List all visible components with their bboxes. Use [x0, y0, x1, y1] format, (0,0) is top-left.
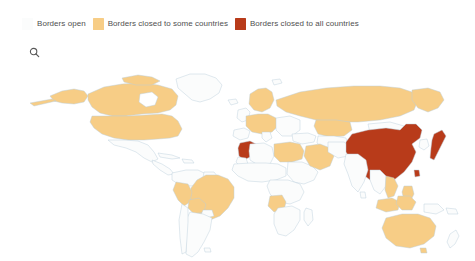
- country-japan[interactable]: [430, 130, 446, 160]
- region-western-europe[interactable]: [246, 114, 278, 134]
- legend-item-borders-open[interactable]: Borders open: [22, 16, 93, 32]
- country-libya-egypt[interactable]: [274, 142, 304, 162]
- island-falklands[interactable]: [204, 248, 211, 252]
- country-papua-new-guinea[interactable]: [424, 204, 444, 214]
- country-tasmania[interactable]: [420, 248, 427, 253]
- country-korea[interactable]: [419, 139, 429, 150]
- country-australia[interactable]: [382, 214, 436, 248]
- world-map[interactable]: [0, 58, 475, 261]
- legend-swatch-borders-closed-some: [93, 18, 104, 30]
- country-aleutians[interactable]: [30, 99, 56, 106]
- island-iceland[interactable]: [228, 99, 238, 105]
- country-iberia[interactable]: [233, 128, 250, 140]
- country-italy[interactable]: [262, 132, 272, 142]
- country-algeria[interactable]: [249, 143, 274, 165]
- country-west-africa[interactable]: [232, 163, 286, 182]
- world-map-svg[interactable]: [0, 58, 475, 261]
- island-svalbard[interactable]: [272, 79, 282, 85]
- country-kazakhstan[interactable]: [314, 120, 352, 137]
- country-russia-far-east[interactable]: [412, 88, 444, 112]
- legend-item-borders-closed-all[interactable]: Borders closed to all countries: [235, 16, 366, 32]
- legend-label-borders-closed-all: Borders closed to all countries: [250, 19, 359, 29]
- country-southern-africa[interactable]: [274, 206, 300, 236]
- legend-swatch-borders-open: [22, 18, 33, 30]
- country-taiwan[interactable]: [414, 170, 420, 177]
- country-central-america[interactable]: [152, 160, 174, 175]
- country-indonesia-west[interactable]: [376, 198, 400, 212]
- country-mexico[interactable]: [108, 140, 158, 162]
- country-scandinavia[interactable]: [249, 88, 274, 112]
- map-legend: Borders open Borders closed to some coun…: [22, 16, 366, 32]
- country-canada[interactable]: [88, 83, 178, 116]
- country-russia[interactable]: [276, 86, 418, 122]
- country-india[interactable]: [344, 154, 368, 192]
- country-united-states[interactable]: [90, 114, 182, 140]
- country-madagascar[interactable]: [304, 208, 313, 226]
- search-icon[interactable]: [29, 47, 40, 58]
- country-vietnam[interactable]: [385, 176, 398, 198]
- map-visualization-root: Borders open Borders closed to some coun…: [0, 0, 475, 261]
- legend-item-borders-closed-some[interactable]: Borders closed to some countries: [93, 16, 235, 32]
- legend-swatch-borders-closed-all: [235, 18, 246, 30]
- legend-label-borders-open: Borders open: [37, 19, 86, 29]
- region-eastern-europe[interactable]: [276, 116, 300, 136]
- country-sri-lanka[interactable]: [360, 192, 366, 198]
- country-greenland[interactable]: [176, 74, 222, 102]
- region-mainland-southeast-asia[interactable]: [370, 170, 386, 194]
- country-hispaniola[interactable]: [182, 159, 194, 163]
- island-new-guinea-east[interactable]: [446, 208, 458, 214]
- legend-label-borders-closed-some: Borders closed to some countries: [108, 19, 228, 29]
- country-turkey[interactable]: [292, 133, 316, 144]
- country-new-zealand[interactable]: [447, 230, 459, 248]
- country-indonesia-borneo[interactable]: [396, 196, 416, 210]
- country-alaska[interactable]: [50, 89, 88, 104]
- country-cuba[interactable]: [158, 153, 180, 159]
